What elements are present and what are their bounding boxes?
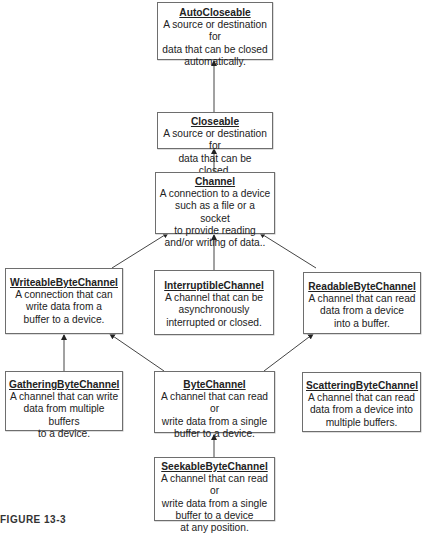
- node-title: InterruptibleChannel: [158, 280, 270, 292]
- node-description: A connection that can write data from a …: [9, 289, 119, 326]
- node-description: A source or destination for data that ca…: [161, 19, 269, 68]
- node-seekablebytechannel: SeekableByteChannel A channel that can r…: [154, 457, 275, 521]
- node-closeable: Closeable A source or destination for da…: [157, 112, 273, 149]
- node-title: ScatteringByteChannel: [306, 380, 417, 392]
- node-description: A channel that can read or write data fr…: [158, 473, 271, 534]
- figure-caption: FIGURE 13-3: [0, 514, 66, 525]
- node-gatheringbytechannel: GatheringByteChannel A channel that can …: [5, 371, 123, 431]
- node-scatteringbytechannel: ScatteringByteChannel A channel that can…: [302, 372, 421, 432]
- node-title: ByteChannel: [158, 379, 271, 391]
- node-interruptiblechannel: InterruptibleChannel A channel that can …: [154, 270, 274, 335]
- node-description: A source or destination for data that ca…: [161, 128, 269, 177]
- node-title: SeekableByteChannel: [158, 461, 271, 473]
- node-title: AutoCloseable: [161, 7, 269, 19]
- node-description: A channel that can read data from a devi…: [307, 293, 417, 330]
- node-description: A channel that can read or write data fr…: [158, 391, 271, 440]
- node-description: A connection to a device such as a file …: [159, 188, 271, 249]
- node-title: ReadableByteChannel: [307, 281, 417, 293]
- node-description: A channel that can read data from a devi…: [306, 392, 417, 429]
- node-title: WriteableByteChannel: [9, 277, 119, 289]
- node-bytechannel: ByteChannel A channel that can read or w…: [154, 371, 275, 433]
- node-writeablebytechannel: WriteableByteChannel A connection that c…: [5, 268, 123, 334]
- node-title: Closeable: [161, 116, 269, 128]
- node-channel: Channel A connection to a device such as…: [155, 172, 275, 234]
- node-readablebytechannel: ReadableByteChannel A channel that can r…: [303, 272, 421, 334]
- node-autocloseable: AutoCloseable A source or destination fo…: [157, 2, 273, 60]
- node-description: A channel that can be asynchronously int…: [158, 292, 270, 329]
- node-title: GatheringByteChannel: [9, 379, 119, 391]
- node-title: Channel: [159, 176, 271, 188]
- node-description: A channel that can write data from multi…: [9, 391, 119, 440]
